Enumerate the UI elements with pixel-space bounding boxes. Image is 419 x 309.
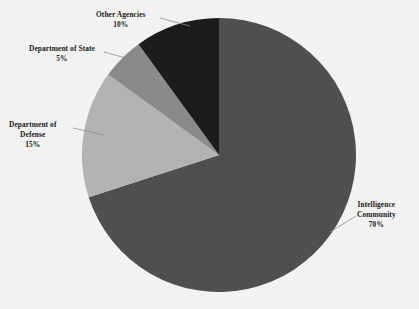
slice-label-intelligence-community-name-line2: Community (357, 210, 396, 220)
slice-label-other-agencies-name: Other Agencies (96, 10, 146, 19)
slice-label-department-of-defense-name-line2: Defense (9, 130, 56, 140)
slice-label-other-agencies: Other Agencies 10% (96, 10, 146, 30)
slice-label-intelligence-community-name-line1: Intelligence (357, 200, 395, 209)
slice-label-intelligence-community-percent: 70% (357, 220, 396, 230)
slice-label-department-of-defense-name-line1: Department of (9, 120, 56, 129)
leader-line-other-agencies (160, 18, 190, 26)
slice-label-intelligence-community: Intelligence Community 70% (357, 200, 396, 229)
slice-label-department-of-state: Department of State 5% (29, 44, 95, 64)
slice-label-other-agencies-percent: 10% (96, 20, 146, 30)
slice-label-department-of-state-name: Department of State (29, 44, 95, 53)
slice-label-department-of-defense: Department of Defense 15% (9, 120, 56, 149)
pie-chart: Other Agencies 10% Department of State 5… (0, 0, 419, 309)
slice-label-department-of-defense-percent: 15% (9, 140, 56, 150)
slice-label-department-of-state-percent: 5% (29, 54, 95, 64)
